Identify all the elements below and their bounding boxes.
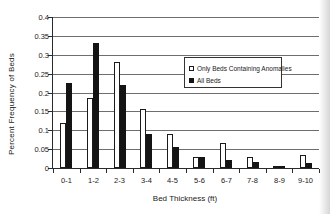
x-axis-tick [53,169,54,173]
x-tick-label: 8-9 [266,176,293,185]
scan-edge-shadow [319,0,330,214]
bar-all-beds-8-9 [279,166,285,168]
x-axis-tick [213,169,214,173]
bar-chart-figure: Percent Frequency of Beds 00.050.10.150.… [0,0,330,214]
x-tick-label: 7-8 [239,176,266,185]
x-axis-title: Bed Thickness (ft) [52,194,318,203]
bar-all-beds-1-2 [93,43,99,168]
x-axis-tick [319,169,320,173]
gridline [53,17,319,18]
y-tick-label: 0.1 [9,126,49,135]
legend-marker-anomalies [189,66,194,71]
y-tick-label: 0.15 [9,107,49,116]
x-tick-label: 0-1 [53,176,80,185]
bar-all-beds-5-6 [199,157,205,168]
bar-all-beds-6-7 [226,160,232,168]
legend-entry: Only Beds Containing Anomalies [189,62,281,74]
x-axis-tick [106,169,107,173]
bar-all-beds-2-3 [120,85,126,168]
gridline [53,36,319,37]
y-tick-label: 0.2 [9,89,49,98]
legend: Only Beds Containing AnomaliesAll Beds [184,57,282,88]
y-tick-label: 0.25 [9,70,49,79]
x-axis-tick [133,169,134,173]
bar-all-beds-9-10 [306,163,312,168]
y-axis-title: Percent Frequency of Beds [7,53,16,155]
x-axis-tick [266,169,267,173]
x-axis-tick [292,169,293,173]
x-tick-label: 4-5 [159,176,186,185]
legend-label: Only Beds Containing Anomalies [197,65,292,72]
x-axis-tick [159,169,160,173]
y-tick-label: 0.05 [9,145,49,154]
x-axis-tick [186,169,187,173]
x-tick-label: 5-6 [186,176,213,185]
x-axis-tick [239,169,240,173]
bar-all-beds-7-8 [253,162,259,168]
plot-area: 00.050.10.150.20.250.30.350.40-11-22-33-… [52,17,319,169]
y-tick-label: 0.4 [9,13,49,22]
bar-all-beds-0-1 [66,83,72,168]
y-tick-label: 0.35 [9,32,49,41]
bar-all-beds-4-5 [173,147,179,168]
y-tick-label: 0.3 [9,51,49,60]
legend-entry: All Beds [189,74,281,86]
x-tick-label: 3-4 [133,176,160,185]
x-tick-label: 9-10 [292,176,319,185]
x-axis-tick [80,169,81,173]
bar-all-beds-3-4 [146,134,152,168]
x-tick-label: 2-3 [106,176,133,185]
legend-marker-all-beds [189,78,194,83]
legend-label: All Beds [197,77,221,84]
x-tick-label: 1-2 [80,176,107,185]
x-tick-label: 6-7 [213,176,240,185]
y-tick-label: 0 [9,164,49,173]
